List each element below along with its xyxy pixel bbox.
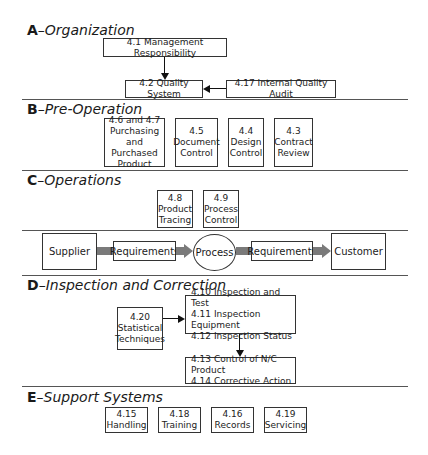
flow-arrow-head-icon — [322, 244, 331, 258]
connector-line — [209, 88, 226, 89]
section-c-heading: C–Operations — [27, 172, 121, 188]
box-line: 4.4 — [239, 126, 253, 137]
section-letter: C — [27, 172, 37, 188]
box-line: Handling — [106, 420, 146, 431]
box-line: 4.20 — [130, 312, 150, 323]
arrow-left-icon — [203, 85, 210, 93]
box-training: 4.18 Training — [158, 407, 201, 433]
box-line: Purchasing — [110, 126, 159, 137]
section-divider — [22, 170, 408, 171]
box-line: 4.11 Inspection Equipment — [191, 309, 295, 331]
section-divider — [22, 386, 408, 387]
process-circle: Process — [193, 234, 236, 271]
box-line: 4.10 Inspection and Test — [191, 287, 295, 309]
box-label: Requirements — [247, 246, 317, 257]
box-line: 4.5 — [189, 126, 203, 137]
connector-line — [164, 57, 165, 74]
section-e-heading: E–Support Systems — [27, 389, 163, 405]
box-line: 4.15 — [116, 409, 136, 420]
box-line: Control — [205, 215, 238, 226]
box-line: 4.8 — [168, 193, 182, 204]
box-label: 4.17 Internal Quality Audit — [227, 78, 335, 100]
section-letter: A — [27, 22, 38, 38]
box-line: 4.12 Inspection Status — [191, 331, 292, 342]
box-line: Techniques — [115, 334, 165, 345]
box-label: Requirements — [110, 246, 180, 257]
box-corrective-action: 4.13 Control of N/C Product 4.14 Correct… — [185, 357, 296, 384]
box-line: Tracing — [159, 215, 191, 226]
box-contract-review: 4.3 Contract Review — [274, 118, 313, 167]
connector-line — [239, 334, 240, 351]
box-process-control: 4.9 Process Control — [203, 190, 239, 228]
box-line: Servicing — [265, 420, 307, 431]
box-line: Control — [230, 148, 263, 159]
box-requirements-out: Requirements — [251, 241, 313, 261]
section-divider — [22, 99, 408, 100]
section-name: –Operations — [37, 172, 121, 188]
box-inspection: 4.10 Inspection and Test 4.11 Inspection… — [185, 295, 296, 334]
box-line: 4.3 — [286, 126, 300, 137]
box-requirements-in: Requirements — [113, 241, 176, 261]
box-design-control: 4.4 Design Control — [228, 118, 264, 167]
box-label: 4.1 Management Responsibility — [104, 37, 226, 59]
box-label: 4.2 Quality System — [126, 78, 202, 100]
section-name: –Support Systems — [37, 389, 163, 405]
box-line: 4.19 — [275, 409, 295, 420]
box-line: 4.16 — [222, 409, 242, 420]
box-line: Product — [158, 204, 192, 215]
box-line: 4.9 — [214, 193, 228, 204]
flow-arrow-head-icon — [184, 244, 193, 258]
box-line: Process — [204, 204, 238, 215]
box-servicing: 4.19 Servicing — [264, 407, 307, 433]
connector-line — [163, 318, 179, 319]
box-statistical-techniques: 4.20 Statistical Techniques — [117, 307, 163, 350]
box-label: Supplier — [49, 246, 90, 257]
box-customer: Customer — [331, 233, 386, 270]
box-line: and Purchased — [105, 137, 164, 159]
box-internal-quality-audit: 4.17 Internal Quality Audit — [226, 80, 336, 98]
section-letter: B — [27, 101, 38, 117]
box-line: Statistical — [118, 323, 162, 334]
box-line: 4.13 Control of N/C Product — [191, 354, 295, 376]
box-line: Training — [162, 420, 198, 431]
box-document-control: 4.5 Document Control — [175, 118, 218, 167]
box-line: Product — [117, 159, 151, 170]
box-line: 4.18 — [169, 409, 189, 420]
box-line: Document — [173, 137, 220, 148]
box-line: Contract — [274, 137, 313, 148]
box-purchasing: 4.6 and 4.7 Purchasing and Purchased Pro… — [104, 118, 165, 167]
section-letter: E — [27, 389, 37, 405]
arrow-right-icon — [178, 315, 185, 323]
box-label: Customer — [334, 246, 383, 257]
box-records: 4.16 Records — [211, 407, 254, 433]
box-line: Design — [230, 137, 261, 148]
box-quality-system: 4.2 Quality System — [125, 80, 203, 98]
box-line: 4.6 and 4.7 — [109, 115, 160, 126]
box-management-responsibility: 4.1 Management Responsibility — [103, 38, 227, 57]
section-divider — [22, 275, 408, 276]
box-product-tracing: 4.8 Product Tracing — [157, 190, 193, 228]
box-label: Process — [196, 247, 234, 258]
box-supplier: Supplier — [42, 233, 97, 270]
box-line: Review — [277, 148, 309, 159]
section-letter: D — [27, 277, 39, 293]
box-handling: 4.15 Handling — [105, 407, 148, 433]
flow-top-line — [22, 230, 408, 231]
box-line: Control — [180, 148, 213, 159]
box-line: Records — [215, 420, 251, 431]
